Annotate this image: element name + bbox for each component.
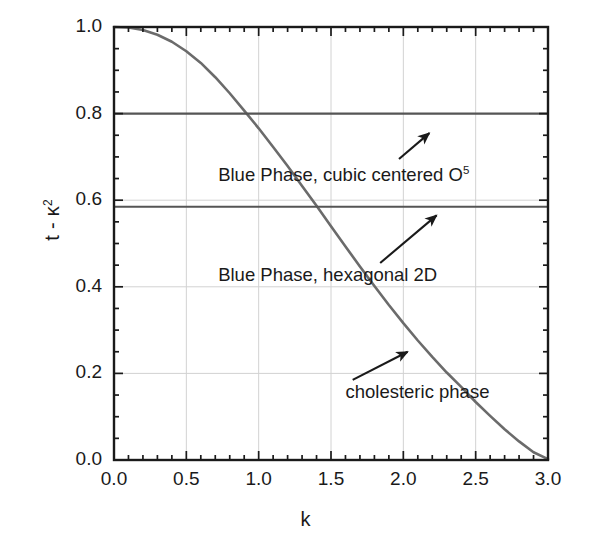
- x-tick-label: 2.0: [383, 468, 423, 490]
- annotation-superscript: 5: [463, 164, 469, 176]
- x-tick-label: 0.0: [94, 468, 134, 490]
- y-axis-title: t - κ2: [40, 160, 64, 280]
- x-tick-label: 1.5: [311, 468, 351, 490]
- annotation-text: Blue Phase, hexagonal 2D: [218, 264, 437, 285]
- y-tick-label: 1.0: [44, 15, 102, 37]
- x-tick-label: 2.5: [456, 468, 496, 490]
- y-tick-label: 0.2: [44, 361, 102, 383]
- x-tick-label: 3.0: [528, 468, 568, 490]
- y-tick-label: 0.4: [44, 275, 102, 297]
- x-tick-label: 0.5: [166, 468, 206, 490]
- y-tick-label: 0.6: [44, 188, 102, 210]
- annotation-label-cubic: Blue Phase, cubic centered O5: [218, 164, 469, 186]
- phase-diagram-figure: t - κ2 k 0.00.51.01.52.02.53.0 0.00.20.4…: [0, 0, 597, 543]
- y-tick-label: 0.8: [44, 102, 102, 124]
- x-tick-label: 1.0: [239, 468, 279, 490]
- annotation-label-cholesteric: cholesteric phase: [345, 381, 489, 403]
- x-axis-title-text: k: [301, 508, 311, 531]
- annotation-label-hexagonal: Blue Phase, hexagonal 2D: [218, 264, 437, 286]
- x-axis-title: k: [0, 508, 597, 531]
- annotation-text: Blue Phase, cubic centered O: [218, 165, 463, 186]
- y-tick-label: 0.0: [44, 448, 102, 470]
- annotation-text: cholesteric phase: [345, 381, 489, 402]
